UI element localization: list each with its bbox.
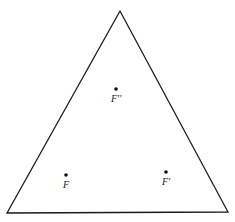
point-f-prime-dot — [164, 170, 168, 174]
triangle-outline — [7, 11, 228, 213]
triangle-diagram — [0, 0, 235, 222]
label-f-prime: F' — [162, 177, 170, 187]
point-f-double-prime-dot — [114, 87, 118, 91]
diagram-canvas: F'' F F' — [0, 0, 235, 222]
point-f-dot — [64, 173, 68, 177]
label-f: F — [63, 180, 69, 190]
label-f-double-prime: F'' — [111, 94, 121, 104]
